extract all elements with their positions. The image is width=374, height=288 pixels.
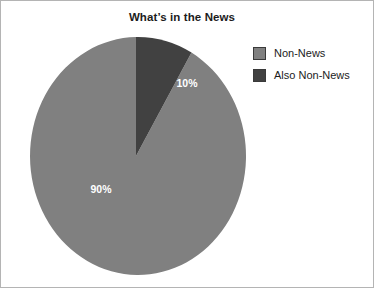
pie-chart-svg: 90% 10% [1,1,261,288]
pie-chart-figure: What’s in the News 90% 10% Non-News Also… [0,0,374,288]
legend-swatch-non-news [253,47,266,60]
legend-label-also-non-news: Also Non-News [274,70,350,81]
chart-legend: Non-News Also Non-News [253,42,371,86]
slice-label-major: 90% [90,183,112,195]
legend-swatch-also-non-news [253,69,266,82]
legend-item-non-news[interactable]: Non-News [253,42,371,64]
legend-item-also-non-news[interactable]: Also Non-News [253,64,371,86]
legend-label-non-news: Non-News [274,48,325,59]
pie-chart-plot-area: 90% 10% [1,1,261,288]
slice-label-minor: 10% [176,77,198,89]
